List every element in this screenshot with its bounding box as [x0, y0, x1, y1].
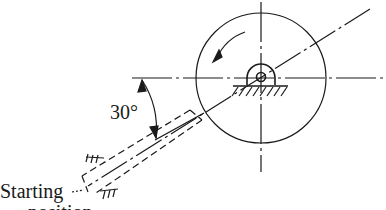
start-leader-line [72, 190, 84, 192]
diagonal-centerline [88, 9, 370, 186]
angle-label: 30° [110, 101, 138, 124]
link-support-hatch-top [86, 154, 104, 163]
ground-hatching [232, 87, 287, 96]
link-support-hatch-bottom [100, 189, 118, 199]
angle-arrowhead-bottom-icon [150, 126, 158, 138]
starting-position-label-line2: position [28, 201, 92, 210]
starting-position-label: Starting [0, 180, 63, 203]
mechanism-diagram [0, 0, 386, 210]
angle-arrowhead-top-icon [138, 80, 146, 92]
